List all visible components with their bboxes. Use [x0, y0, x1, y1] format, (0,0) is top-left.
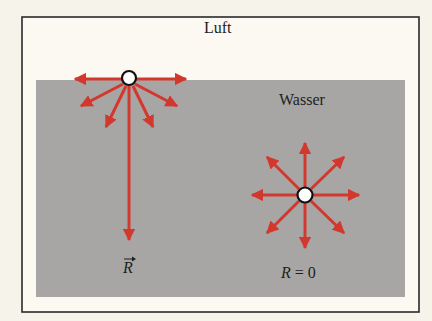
vector-arrow-icon — [124, 256, 136, 262]
surface-tension-diagram — [0, 0, 432, 321]
surface-molecule — [122, 71, 136, 85]
equals-zero: = 0 — [291, 264, 316, 281]
resultant-symbol: R — [281, 264, 291, 281]
water-label: Wasser — [279, 92, 325, 108]
zero-resultant-label: R = 0 — [281, 265, 316, 281]
resultant-vector-label: R — [123, 260, 133, 276]
interior-molecule — [298, 188, 313, 203]
air-label: Luft — [204, 20, 232, 36]
water-region — [36, 80, 405, 297]
